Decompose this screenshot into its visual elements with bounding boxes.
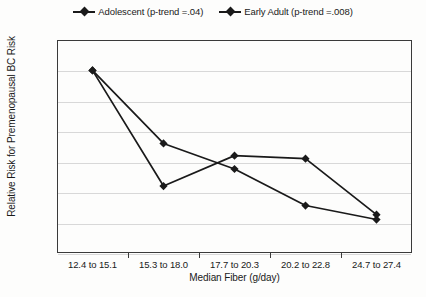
- gridline: [58, 102, 411, 103]
- x-axis-title: Median Fiber (g/day): [57, 272, 412, 283]
- y-axis-title: Relative Risk for Premenopausal BC Risk: [3, 0, 19, 253]
- x-tick: [199, 253, 200, 258]
- gridline: [58, 163, 411, 164]
- plot-area: [57, 40, 412, 253]
- gridline: [58, 71, 411, 72]
- legend-label-adolescent: Adolescent (p-trend =.04): [98, 6, 203, 17]
- diamond-line-marker-icon: [73, 7, 95, 17]
- chart-legend: Adolescent (p-trend =.04) Early Adult (p…: [0, 6, 426, 17]
- x-tick: [341, 253, 342, 258]
- x-tick-label: 24.7 to 27.4: [352, 259, 401, 270]
- x-tick-label: 15.3 to 18.0: [139, 259, 188, 270]
- y-axis-title-text: Relative Risk for Premenopausal BC Risk: [6, 36, 17, 217]
- legend-item-early-adult: Early Adult (p-trend =.008): [219, 6, 352, 17]
- x-tick-label: 17.7 to 20.3: [210, 259, 259, 270]
- gridline: [58, 193, 411, 194]
- legend-label-early-adult: Early Adult (p-trend =.008): [244, 6, 352, 17]
- x-tick-label: 12.4 to 15.1: [68, 259, 117, 270]
- gridline: [58, 132, 411, 133]
- diamond-line-marker-icon: [219, 7, 241, 17]
- gridline: [58, 254, 411, 255]
- chart-figure: Adolescent (p-trend =.04) Early Adult (p…: [0, 0, 426, 297]
- x-tick: [270, 253, 271, 258]
- gridline: [58, 224, 411, 225]
- x-tick: [128, 253, 129, 258]
- x-tick-label: 20.2 to 22.8: [281, 259, 330, 270]
- legend-item-adolescent: Adolescent (p-trend =.04): [73, 6, 203, 17]
